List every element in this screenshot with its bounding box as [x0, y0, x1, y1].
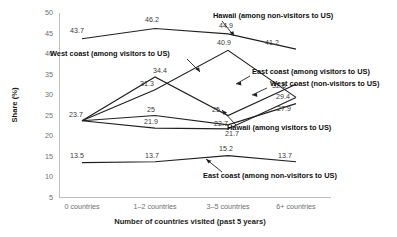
data-label-hawaii-nonvis-1: 46.2: [145, 16, 159, 24]
x-tick-labels: 0 countries 1–2 countries 3–5 countries …: [64, 202, 316, 211]
data-label-hawaii-vis-2: 22.7: [214, 120, 228, 128]
data-label-hawaii-nonvis-0: 43.7: [70, 27, 84, 35]
y-tick-labels: 50 45 40 35 30 25 20 15 10 5: [45, 8, 53, 202]
data-label-hawaii-nonvis-3: 41.2: [265, 39, 279, 47]
y-tick-15: 15: [45, 152, 53, 161]
data-label-westcoast-vis-2: 40.9: [217, 39, 231, 47]
data-label-eastcoast-nonvis-2: 15.2: [219, 145, 233, 153]
annotation-hawaii-visitors: Hawaii (among visitors to US): [227, 123, 332, 132]
y-tick-50: 50: [45, 8, 53, 17]
x-tick-1-2-countries: 1–2 countries: [133, 202, 177, 211]
series-line-hawaii-non-visitors: [82, 29, 296, 50]
y-tick-20: 20: [45, 131, 53, 140]
data-label-eastcoast-nonvis-0: 13.5: [70, 152, 84, 160]
data-label-westcoast-vis-1: 31.3: [140, 80, 154, 88]
data-label-westcoast-vis-3: 29.4: [276, 93, 290, 101]
y-tick-5: 5: [49, 193, 53, 202]
data-label-hawaii-vis-1: 25: [147, 106, 155, 114]
x-tick-6-countries: 6+ countries: [276, 202, 316, 211]
y-tick-35: 35: [45, 70, 53, 79]
annotation-east-coast-non-visitors: East coast (among non-visitors to US): [203, 171, 337, 180]
data-label-eastcoast-vis-2: 25: [212, 106, 220, 114]
annotation-hawaii-non-visitors: Hawaii (among non-visitors to US): [213, 11, 334, 20]
data-label-hawaii-vis-3: 27.9: [277, 105, 291, 113]
annotation-east-coast-visitors: East coast (among visitors to US): [252, 67, 370, 76]
line-chart: 50 45 40 35 30 25 20 15 10 5 Share (%) 0…: [0, 0, 397, 237]
annotation-west-coast-non-visitors: West coast (non-visitors to US): [270, 79, 380, 88]
y-tick-30: 30: [45, 90, 53, 99]
data-labels: 43.7 46.2 44.9 41.2 31.3 40.9 29.4 23.7 …: [69, 16, 292, 160]
data-label-eastcoast-nonvis-3: 13.7: [278, 152, 292, 160]
y-axis-title: Share (%): [10, 87, 19, 122]
annotation-west-coast-visitors: West coast (among visitors to US): [50, 49, 170, 58]
x-tick-3-5-countries: 3–5 countries: [206, 202, 250, 211]
series-line-east-coast-non-visitors: [82, 156, 296, 163]
y-tick-10: 10: [45, 172, 53, 181]
y-tick-25: 25: [45, 111, 53, 120]
data-label-eastcoast-vis-0: 23.7: [69, 111, 83, 119]
leader-east-coast-visitors: [236, 76, 250, 84]
x-axis-title: Number of countries visited (past 5 year…: [114, 217, 266, 226]
data-label-eastcoast-vis-1: 34.4: [153, 67, 167, 75]
data-label-eastcoast-nonvis-1: 13.7: [145, 152, 159, 160]
chart-canvas: 50 45 40 35 30 25 20 15 10 5 Share (%) 0…: [0, 0, 397, 237]
data-label-westcoast-nonvis-1: 21.9: [144, 118, 158, 126]
x-tick-0-countries: 0 countries: [64, 202, 100, 211]
leader-west-coast-non-visitors: [252, 88, 267, 95]
y-tick-45: 45: [45, 29, 53, 38]
